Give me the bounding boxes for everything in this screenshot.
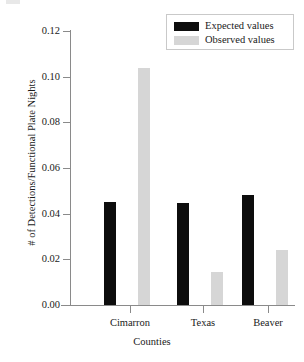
y-tick-label: 0.06 (26, 163, 60, 174)
y-tick-mark (63, 77, 71, 78)
bar-observed-cimarron (138, 68, 150, 305)
bar-expected-beaver (242, 195, 254, 305)
y-tick-label: 0.12 (26, 26, 60, 37)
y-tick-label: 0.10 (26, 72, 60, 83)
legend-label-expected: Expected values (205, 19, 274, 33)
y-tick-mark (63, 259, 71, 260)
y-tick-label: 0.04 (26, 209, 60, 220)
x-tick-mark (268, 306, 269, 313)
bar-observed-beaver (276, 250, 288, 305)
y-tick-mark (63, 122, 71, 123)
plot-area (71, 31, 295, 305)
legend-label-observed: Observed values (205, 33, 275, 47)
legend: Expected values Observed values (166, 14, 294, 50)
y-tick-mark (63, 214, 71, 215)
y-tick-label: 0.00 (26, 300, 60, 311)
y-tick-mark (63, 31, 71, 32)
x-tick-mark (130, 306, 131, 313)
y-tick-mark (63, 168, 71, 169)
y-tick-label: 0.02 (26, 254, 60, 265)
y-tick-label-wrap: 0.10 (24, 72, 60, 83)
y-axis-title-holder: # of Detections/Functional Plate Nights (0, 0, 24, 362)
x-axis-line (61, 305, 295, 306)
y-tick-label-wrap: 0.02 (24, 254, 60, 265)
legend-swatch-expected (174, 22, 199, 31)
y-tick-label-wrap: 0.12 (24, 26, 60, 37)
bar-observed-texas (211, 272, 223, 305)
y-tick-label: 0.08 (26, 117, 60, 128)
y-tick-label-wrap: 0.00 (24, 300, 60, 311)
bar-expected-cimarron (104, 202, 116, 305)
bar-expected-texas (177, 203, 189, 305)
x-tick-label-beaver: Beaver (228, 317, 304, 329)
y-tick-mark (63, 305, 71, 306)
y-tick-label-wrap: 0.04 (24, 209, 60, 220)
y-tick-label-wrap: 0.06 (24, 163, 60, 174)
bar-chart: # of Detections/Functional Plate Nights … (0, 0, 304, 362)
legend-swatch-observed (174, 36, 199, 45)
y-tick-label-wrap: 0.08 (24, 117, 60, 128)
x-axis-title: Counties (0, 336, 304, 347)
x-tick-mark (203, 306, 204, 313)
x-tick-label-cimarron: Cimarron (90, 317, 170, 329)
